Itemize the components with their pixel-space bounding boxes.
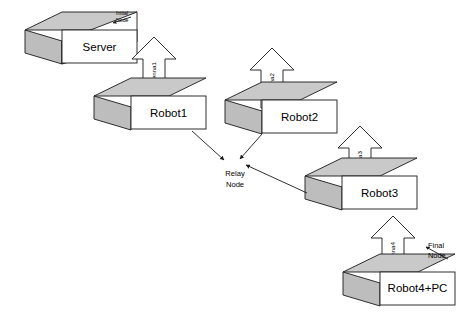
final-node-label-line1: Final bbox=[428, 241, 444, 250]
diagram-canvas: Server Initial Node antenna1 Robot1 ante… bbox=[0, 0, 473, 317]
node-robot2[interactable]: Robot2 bbox=[225, 82, 337, 134]
initial-node-label-line2: Node bbox=[116, 17, 129, 23]
robot1-box-top bbox=[94, 78, 206, 96]
robot4pc-box-side bbox=[343, 272, 380, 306]
final-node-label-line2: Node bbox=[428, 251, 446, 260]
robot1-box-side bbox=[94, 96, 131, 130]
relay-links bbox=[192, 131, 307, 193]
final-node-badge: Final Node bbox=[426, 241, 448, 260]
relay-node-label-line2: Node bbox=[226, 180, 244, 189]
robot3-box-side bbox=[305, 176, 342, 210]
server-box-side bbox=[25, 30, 62, 64]
relay-link-from-robot3 bbox=[246, 165, 307, 193]
relay-node[interactable]: Relay Node bbox=[225, 169, 245, 189]
server-label: Server bbox=[83, 41, 117, 53]
relay-link-from-robot2 bbox=[240, 134, 262, 159]
node-robot4pc[interactable]: Robot4+PC bbox=[343, 254, 455, 306]
relay-link-from-robot1 bbox=[192, 131, 224, 160]
robot3-label: Robot3 bbox=[361, 187, 398, 199]
initial-node-label-line1: Initial bbox=[116, 10, 128, 16]
node-robot1[interactable]: Robot1 bbox=[94, 78, 206, 130]
network-topology-diagram: Server Initial Node antenna1 Robot1 ante… bbox=[0, 0, 473, 317]
robot1-label: Robot1 bbox=[150, 107, 187, 119]
robot3-box-top bbox=[305, 158, 417, 176]
robot2-box-top bbox=[225, 82, 337, 100]
node-robot3[interactable]: Robot3 bbox=[305, 158, 417, 210]
robot2-box-side bbox=[225, 100, 262, 134]
robot2-label: Robot2 bbox=[281, 111, 318, 123]
robot4pc-label: Robot4+PC bbox=[388, 282, 448, 294]
relay-node-label-line1: Relay bbox=[225, 169, 245, 178]
